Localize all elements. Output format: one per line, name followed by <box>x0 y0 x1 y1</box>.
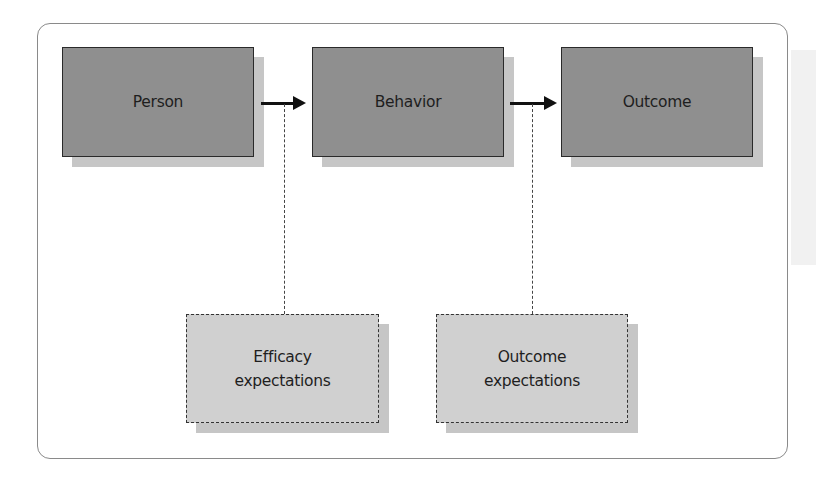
arrow-person-behavior-head <box>293 96 306 110</box>
outcome-expectations-label-line1: Outcome <box>498 345 567 369</box>
outcome-node: Outcome <box>561 47 753 157</box>
efficacy-expectations-node: Efficacy expectations <box>186 314 379 423</box>
behavior-label: Behavior <box>375 93 441 111</box>
outcome-expectations-connector <box>532 104 533 314</box>
arrow-behavior-outcome-line <box>510 102 546 105</box>
person-label: Person <box>133 93 183 111</box>
side-band <box>791 50 816 265</box>
efficacy-label-line2: expectations <box>234 369 330 393</box>
outcome-label: Outcome <box>623 93 692 111</box>
person-node: Person <box>62 47 254 157</box>
efficacy-connector <box>284 104 285 314</box>
outcome-expectations-node: Outcome expectations <box>436 314 628 423</box>
arrow-person-behavior-line <box>261 102 295 105</box>
efficacy-label-line1: Efficacy <box>253 345 311 369</box>
arrow-behavior-outcome-head <box>544 96 557 110</box>
behavior-node: Behavior <box>312 47 504 157</box>
outcome-expectations-label-line2: expectations <box>484 369 580 393</box>
